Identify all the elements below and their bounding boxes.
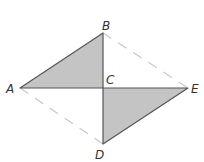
label-C: C bbox=[106, 73, 115, 87]
dashed-segment-BE bbox=[103, 33, 188, 88]
label-D: D bbox=[95, 148, 104, 162]
triangle-ABC bbox=[20, 33, 103, 88]
geometry-diagram: A B C D E bbox=[0, 0, 204, 162]
label-B: B bbox=[102, 19, 110, 33]
label-E: E bbox=[191, 82, 199, 96]
triangle-DCE bbox=[103, 88, 188, 144]
dashed-segment-AD bbox=[20, 88, 103, 144]
label-A: A bbox=[5, 82, 14, 96]
